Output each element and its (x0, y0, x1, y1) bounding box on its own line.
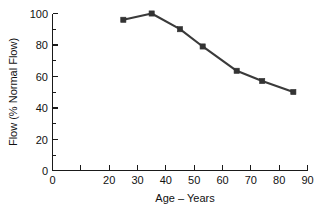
y-axis-title: Flow (% Normal Flow) (7, 38, 19, 146)
y-tick-label: 60 (36, 71, 48, 83)
flow-vs-age-chart: 100 80 60 40 20 0 0 20 30 40 50 (0, 0, 325, 213)
x-tick-label: 0 (49, 174, 55, 186)
data-point (121, 17, 126, 22)
x-tick-label: 90 (301, 174, 313, 186)
data-point (200, 44, 205, 49)
x-tick-label: 40 (160, 174, 172, 186)
y-tick-label: 80 (36, 39, 48, 51)
x-axis-title: Age – Years (155, 192, 215, 204)
data-point (291, 89, 296, 94)
x-tick-label: 60 (216, 174, 228, 186)
x-tick-label: 50 (188, 174, 200, 186)
y-tick-label: 100 (30, 8, 48, 20)
chart-canvas: 100 80 60 40 20 0 0 20 30 40 50 (0, 0, 325, 213)
y-tick-label: 0 (42, 165, 48, 177)
y-tick-label: 40 (36, 102, 48, 114)
x-tick-label: 70 (245, 174, 257, 186)
x-tick-label: 80 (273, 174, 285, 186)
data-point (177, 27, 182, 32)
y-tick-label: 20 (36, 134, 48, 146)
data-point (149, 11, 154, 16)
x-tick-label: 30 (131, 174, 143, 186)
x-tick-label: 20 (103, 174, 115, 186)
data-point (234, 68, 239, 73)
data-point (260, 78, 265, 83)
